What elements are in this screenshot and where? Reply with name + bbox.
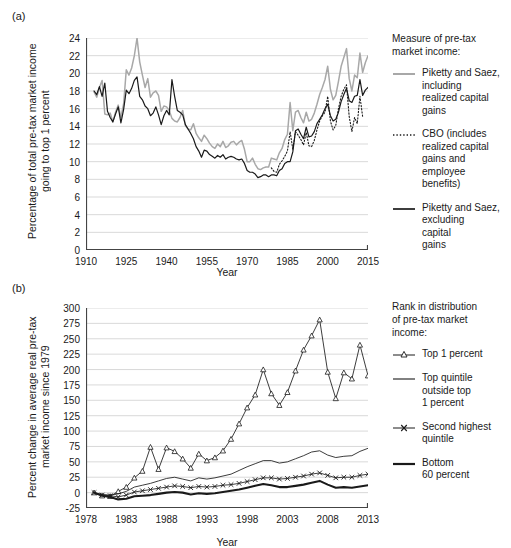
y-tick-label: 18: [42, 86, 80, 97]
y-tick-label: 8: [42, 174, 80, 185]
panel-a-tag: (a): [12, 10, 25, 22]
y-tick-label: 125: [42, 410, 80, 421]
x-tick-label: 1998: [227, 514, 267, 525]
legend-label: Top 1 percent: [422, 348, 483, 361]
legend-label: Top quintile outside top 1 percent: [422, 372, 473, 410]
y-tick-label: 0: [42, 487, 80, 498]
solid-black-line-icon: [392, 202, 416, 215]
x-tick-label: 2008: [308, 514, 348, 525]
y-tick-label: 300: [42, 303, 80, 314]
thin-solid-line-icon: [392, 372, 416, 385]
y-tick-label: 75: [42, 441, 80, 452]
x-tick-label: 1983: [106, 514, 146, 525]
y-tick-label: 25: [42, 472, 80, 483]
panel-b-y-axis-label: Percent change in average real pre-tax m…: [26, 296, 52, 518]
y-tick-label: 250: [42, 333, 80, 344]
legend-label: Bottom 60 percent: [422, 457, 469, 482]
x-tick-label: 1910: [66, 256, 106, 267]
legend-item-second-highest-quintile: Second highest quintile: [392, 421, 510, 446]
y-tick-label: 100: [42, 426, 80, 437]
legend-label: CBO (includes realized capital gains and…: [422, 128, 489, 191]
legend-item-top-quintile-outside-top-1: Top quintile outside top 1 percent: [392, 372, 510, 410]
dotted-black-line-icon: [392, 128, 416, 141]
legend-item-top-1-percent: Top 1 percent: [392, 348, 510, 361]
y-tick-label: 4: [42, 209, 80, 220]
legend-item-piketty-saez-including: Piketty and Saez, including realized cap…: [392, 67, 510, 117]
x-tick-label: 1955: [187, 256, 227, 267]
x-tick-label: 1985: [267, 256, 307, 267]
panel-a-legend-title: Measure of pre-tax market income:: [392, 32, 510, 58]
legend-item-bottom-60-percent: Bottom 60 percent: [392, 457, 510, 482]
x-tick-label: 1993: [187, 514, 227, 525]
y-tick-label: 16: [42, 103, 80, 114]
y-tick-label: -25: [42, 503, 80, 514]
x-tick-label: 1940: [147, 256, 187, 267]
x-tick-label: 2003: [267, 514, 307, 525]
panel-b-plot-area: [86, 308, 368, 508]
legend-item-piketty-saez-excluding: Piketty and Saez, excluding capital gain…: [392, 202, 510, 252]
x-tick-label: 1925: [106, 256, 146, 267]
cross-marker-line-icon: [392, 421, 416, 434]
x-tick-label: 1978: [66, 514, 106, 525]
y-tick-label: 175: [42, 379, 80, 390]
y-tick-label: 14: [42, 121, 80, 132]
solid-gray-line-icon: [392, 67, 416, 80]
y-tick-label: 200: [42, 364, 80, 375]
x-tick-label: 1988: [147, 514, 187, 525]
legend-label: Second highest quintile: [422, 421, 491, 446]
y-tick-label: 12: [42, 139, 80, 150]
x-tick-label: 2013: [348, 514, 388, 525]
y-tick-label: 24: [42, 33, 80, 44]
panel-b: (b) Percent change in average real pre-t…: [0, 272, 511, 548]
y-tick-label: 22: [42, 50, 80, 61]
triangle-marker-line-icon: [392, 348, 416, 361]
panel-b-x-axis-label: Year: [187, 536, 267, 548]
y-tick-label: 2: [42, 227, 80, 238]
panel-a: (a) Percentage of total pre-tax market i…: [0, 0, 511, 276]
y-tick-label: 6: [42, 192, 80, 203]
legend-label: Piketty and Saez, excluding capital gain…: [422, 202, 500, 252]
panel-b-tag: (b): [12, 282, 25, 294]
y-tick-label: 275: [42, 318, 80, 329]
y-tick-label: 50: [42, 456, 80, 467]
x-tick-label: 1970: [227, 256, 267, 267]
y-tick-label: 225: [42, 349, 80, 360]
thick-solid-line-icon: [392, 457, 416, 470]
panel-b-legend: Rank in distribution of pre-tax market i…: [392, 300, 510, 493]
panel-a-plot-area: [86, 38, 368, 250]
legend-item-cbo: CBO (includes realized capital gains and…: [392, 128, 510, 191]
x-tick-label: 2000: [308, 256, 348, 267]
panel-b-legend-title: Rank in distribution of pre-tax market i…: [392, 300, 510, 339]
x-tick-label: 2015: [348, 256, 388, 267]
y-tick-label: 150: [42, 395, 80, 406]
legend-label: Piketty and Saez, including realized cap…: [422, 67, 500, 117]
panel-a-legend: Measure of pre-tax market income: Pikett…: [392, 32, 510, 263]
y-tick-label: 20: [42, 68, 80, 79]
y-tick-label: 10: [42, 156, 80, 167]
y-tick-label: 0: [42, 245, 80, 256]
